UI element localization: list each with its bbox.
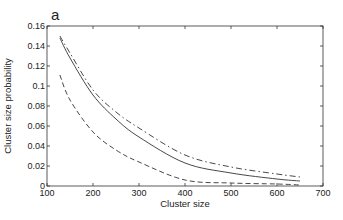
x-tick-label: 500	[223, 188, 238, 198]
y-tick-label: 0.16	[27, 21, 45, 31]
y-tick-label: 0.12	[27, 61, 45, 71]
series-group	[60, 36, 300, 185]
y-axis-label: Cluster size probability	[2, 58, 13, 154]
y-tick-label: 0	[40, 181, 45, 191]
x-tick-label: 600	[269, 188, 284, 198]
y-tick-label: 0.04	[27, 141, 45, 151]
x-axis-label: Cluster size	[160, 198, 210, 209]
series-line-dash-dot	[60, 36, 300, 177]
y-axis: 00.020.040.060.080.10.120.140.16	[27, 21, 323, 191]
x-axis: 100200300400500600700	[39, 26, 330, 198]
plot-area	[47, 26, 323, 186]
series-line-solid	[60, 38, 300, 181]
panel-label: a	[51, 6, 60, 23]
x-tick-label: 700	[315, 188, 330, 198]
y-tick-label: 0.08	[27, 101, 45, 111]
chart: a 100200300400500600700 00.020.040.060.0…	[0, 0, 343, 220]
x-tick-label: 300	[131, 188, 146, 198]
y-tick-label: 0.14	[27, 41, 45, 51]
plot-frame	[47, 26, 323, 186]
y-tick-label: 0.1	[32, 81, 45, 91]
series-line-dashed	[60, 75, 300, 185]
y-tick-label: 0.02	[27, 161, 45, 171]
y-tick-label: 0.06	[27, 121, 45, 131]
x-tick-label: 200	[85, 188, 100, 198]
x-tick-label: 400	[177, 188, 192, 198]
